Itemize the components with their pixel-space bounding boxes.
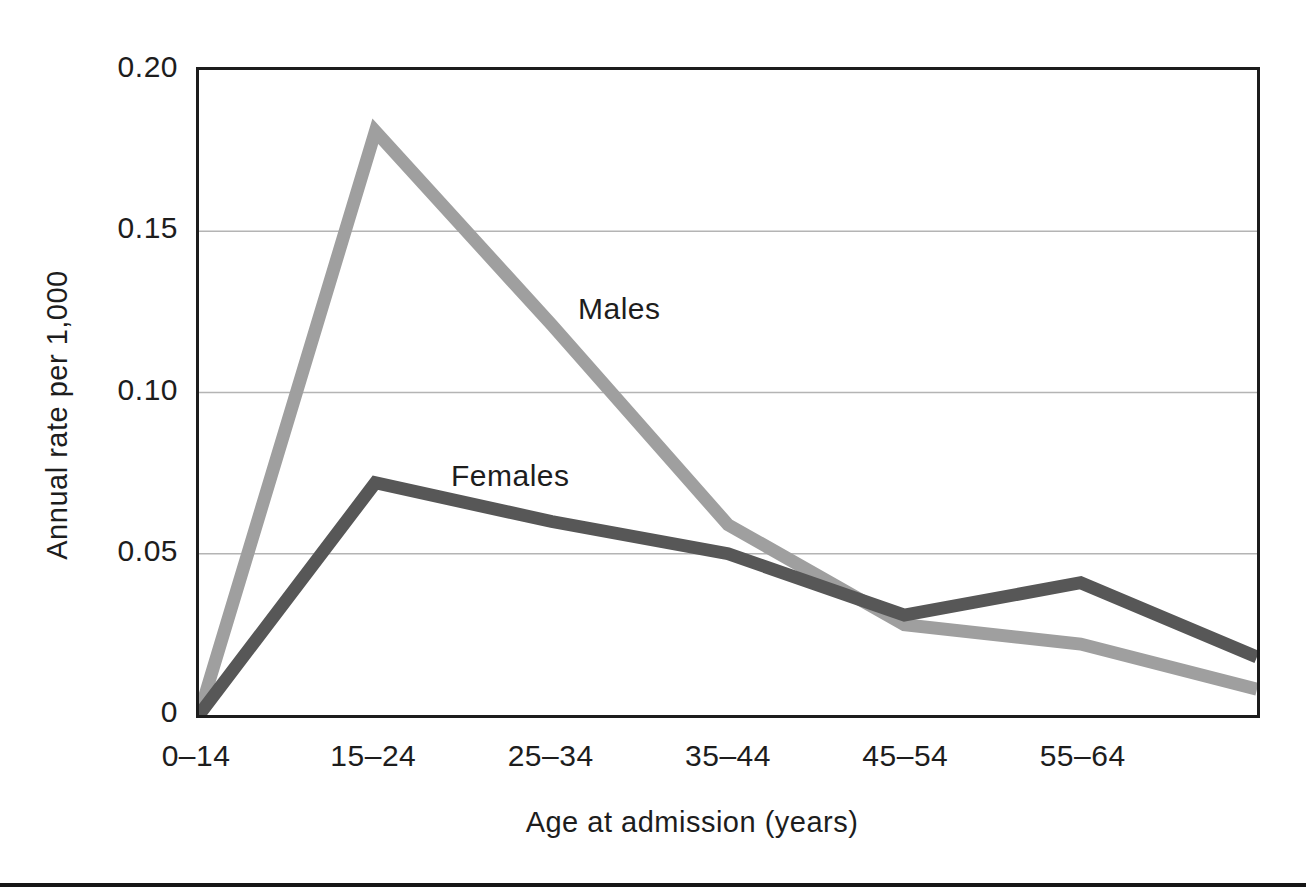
- x-tick-label-1: 0–14: [111, 739, 281, 773]
- y-tick-label-0_05: 0.05: [30, 535, 178, 567]
- females-series-label: Females: [451, 459, 570, 493]
- males-series-label: Males: [578, 292, 661, 326]
- page-bottom-rule: [0, 883, 1306, 887]
- x-tick-label-6: 55–64: [998, 739, 1168, 773]
- y-tick-label-0: 0: [30, 696, 178, 728]
- line-chart: Annual rate per 1,000 0.200.150.100.050 …: [0, 0, 1306, 895]
- males-line: [199, 131, 1257, 715]
- x-tick-label-2: 15–24: [288, 739, 458, 773]
- x-tick-label-3: 25–34: [466, 739, 636, 773]
- x-axis-title: Age at admission (years): [392, 806, 992, 839]
- y-axis-title: Annual rate per 1,000: [41, 270, 74, 559]
- plot-area: Males Females: [196, 67, 1260, 718]
- x-tick-label-4: 35–44: [643, 739, 813, 773]
- y-tick-label-0_15: 0.15: [30, 212, 178, 244]
- y-tick-label-0_10: 0.10: [30, 374, 178, 406]
- x-tick-label-5: 45–54: [820, 739, 990, 773]
- y-tick-label-0_20: 0.20: [30, 51, 178, 83]
- page: Annual rate per 1,000 0.200.150.100.050 …: [0, 0, 1306, 895]
- chart-canvas: [199, 70, 1257, 715]
